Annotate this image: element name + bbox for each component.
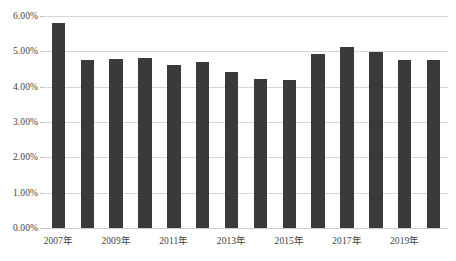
plot-area [44, 16, 448, 228]
x-tick-label: 2017年 [332, 233, 362, 247]
bar[interactable] [311, 54, 325, 228]
x-tick-label: 2013年 [217, 233, 247, 247]
x-tick-label: 2015年 [275, 233, 305, 247]
x-tick-label: 2011年 [159, 233, 188, 247]
x-axis: 2007年2009年2011年2013年2015年2017年2019年 [44, 228, 448, 258]
y-tick-label: 2.00% [13, 152, 38, 162]
bar[interactable] [340, 47, 354, 228]
x-tick-label: 2007年 [44, 233, 74, 247]
bar[interactable] [369, 52, 383, 228]
bar[interactable] [196, 62, 210, 228]
y-tick-label: 1.00% [13, 188, 38, 198]
bar[interactable] [81, 60, 95, 228]
bar[interactable] [225, 72, 239, 228]
bar[interactable] [167, 65, 181, 228]
bar[interactable] [254, 79, 268, 228]
bar[interactable] [283, 80, 297, 228]
bar[interactable] [427, 60, 441, 228]
bars-layer [44, 16, 448, 228]
y-tick-label: 3.00% [13, 117, 38, 127]
bar[interactable] [398, 60, 412, 228]
y-tick-label: 0.00% [13, 223, 38, 233]
x-tick-label: 2019年 [390, 233, 420, 247]
bar[interactable] [109, 59, 123, 228]
bar[interactable] [138, 58, 152, 228]
y-tick-label: 5.00% [13, 46, 38, 56]
x-tick-label: 2009年 [101, 233, 131, 247]
y-tick-label: 6.00% [13, 11, 38, 21]
bar[interactable] [52, 23, 66, 228]
bar-chart: 0.00%1.00%2.00%3.00%4.00%5.00%6.00% 2007… [0, 0, 456, 261]
y-axis: 0.00%1.00%2.00%3.00%4.00%5.00%6.00% [0, 0, 44, 261]
y-tick-label: 4.00% [13, 82, 38, 92]
